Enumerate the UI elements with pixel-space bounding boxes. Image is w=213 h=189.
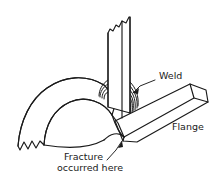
- fracture-label-line2: occurred here: [57, 162, 123, 173]
- diagram-canvas: Weld Flange Fracture occurred here: [0, 0, 213, 189]
- fracture-leader: [107, 141, 123, 160]
- fracture-leader-arrowhead: [118, 141, 123, 148]
- flange-label: Flange: [172, 121, 204, 132]
- weld-bead: [130, 82, 138, 113]
- weld-label: Weld: [159, 70, 182, 81]
- vertical-plate: [108, 17, 130, 118]
- fracture-label-line1: Fracture: [64, 151, 103, 162]
- fracture-point: [44, 115, 124, 147]
- engineering-diagram: Weld Flange Fracture occurred here: [0, 0, 213, 189]
- weld-leader: [133, 80, 155, 94]
